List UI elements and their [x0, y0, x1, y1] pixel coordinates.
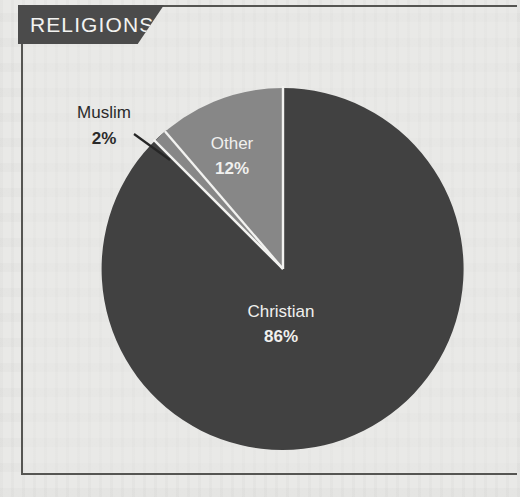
slice-label-other-name: Other [211, 134, 254, 153]
pie-chart: Christian 86% Other 12% Muslim 2% [0, 0, 520, 497]
slice-label-muslim-value: 2% [92, 129, 117, 148]
religions-infographic-page: RELIGIONS Christian 86% Other 12% Muslim… [0, 0, 520, 497]
slice-label-other-value: 12% [215, 159, 249, 178]
slice-label-christian-name: Christian [247, 302, 314, 321]
pie-chart-svg: Christian 86% Other 12% Muslim 2% [0, 0, 520, 497]
slice-label-muslim-name: Muslim [77, 103, 131, 122]
slice-label-christian-value: 86% [264, 327, 298, 346]
